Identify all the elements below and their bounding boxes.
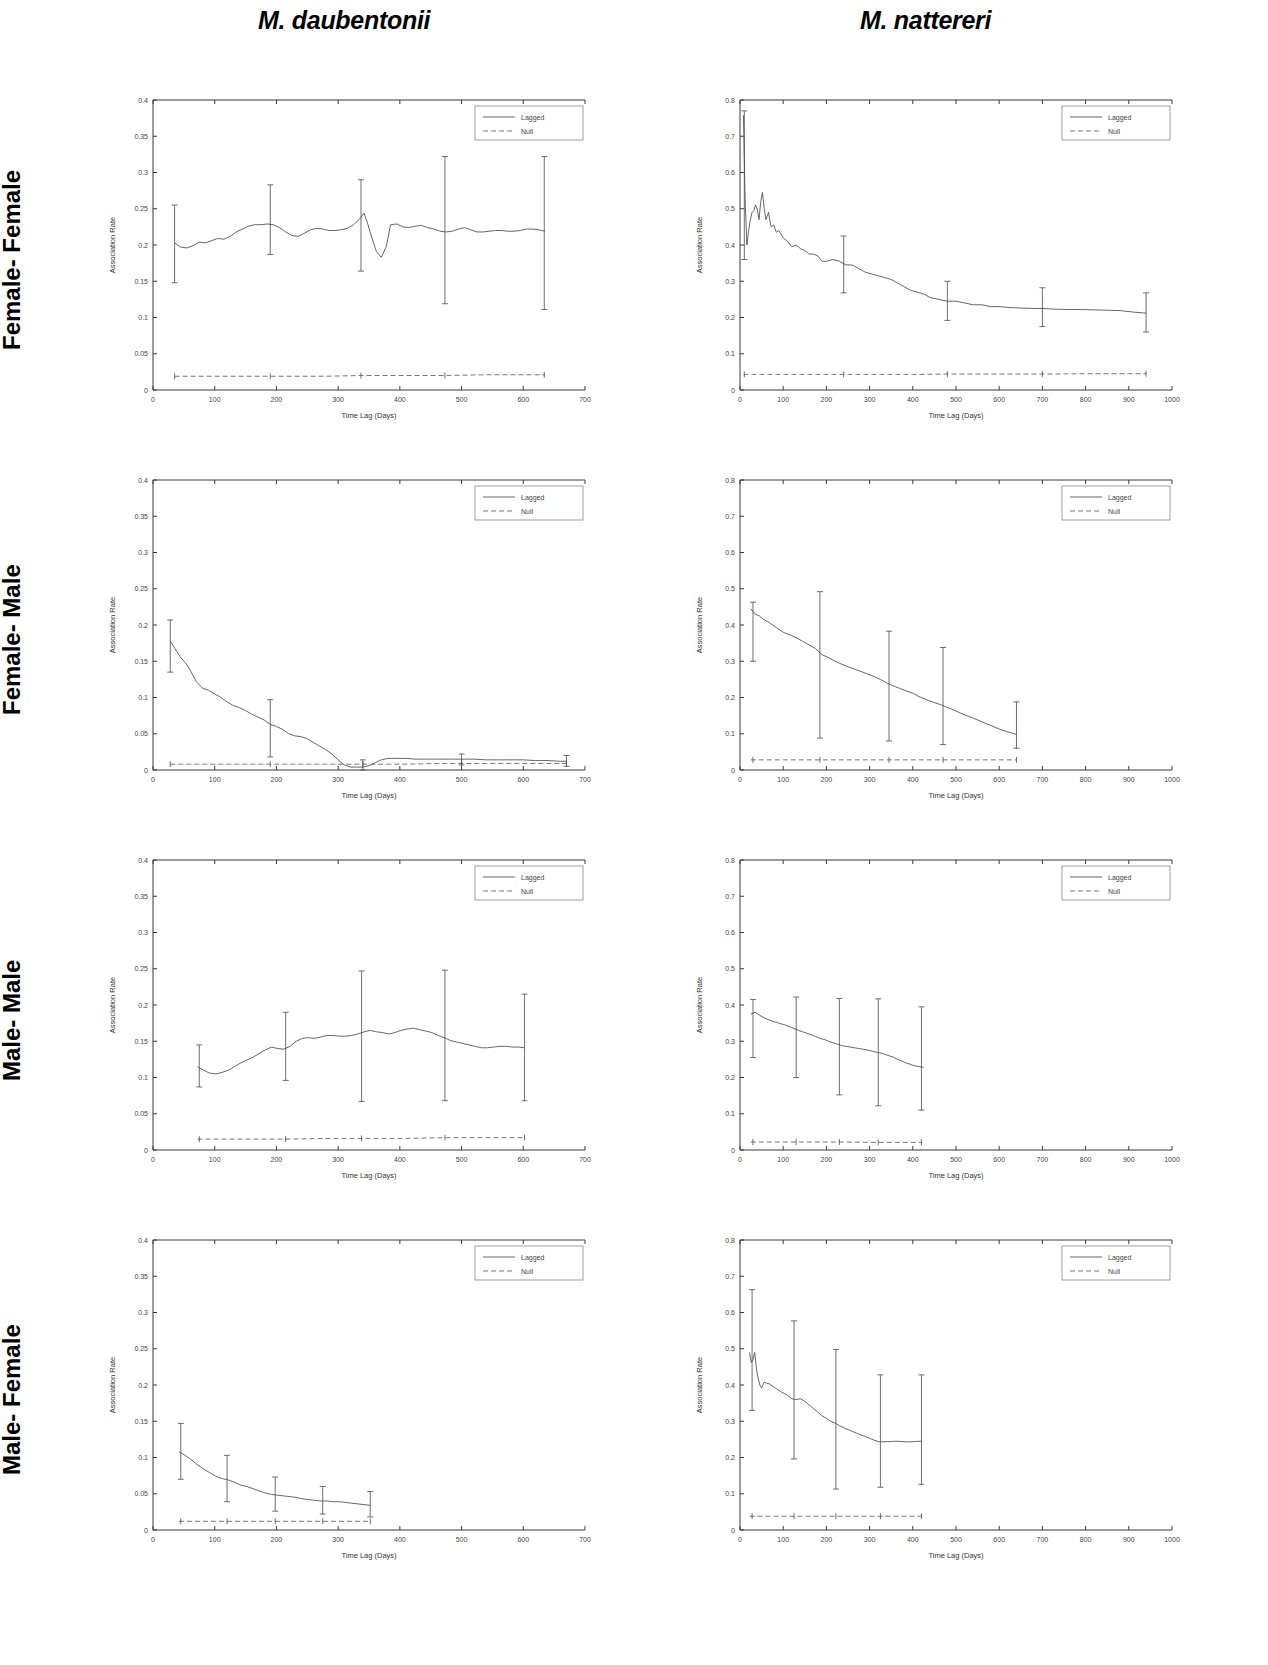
x-tick-label: 0 <box>738 1536 742 1543</box>
y-tick-label: 0.25 <box>134 1345 148 1352</box>
x-tick-label: 0 <box>151 776 155 783</box>
y-tick-label: 0.3 <box>725 658 735 665</box>
x-tick-label: 700 <box>579 1156 591 1163</box>
y-tick-label: 0.3 <box>138 549 148 556</box>
y-tick-label: 0.05 <box>134 730 148 737</box>
y-tick-label: 0.35 <box>134 133 148 140</box>
plot-panel-ff-daubentonii: 010020030040050060070000.050.10.150.20.2… <box>103 86 603 436</box>
x-tick-label: 0 <box>738 776 742 783</box>
plot-panel-mm-daubentonii: 010020030040050060070000.050.10.150.20.2… <box>103 846 603 1196</box>
column-title-nattereri: M. nattereri <box>860 6 1160 35</box>
x-tick-label: 100 <box>777 396 789 403</box>
y-tick-label: 0.2 <box>725 314 735 321</box>
x-tick-label: 400 <box>394 1536 406 1543</box>
x-tick-label: 100 <box>209 1156 221 1163</box>
plot-svg-mm-nattereri: 0100200300400500600700800900100000.10.20… <box>690 846 1190 1196</box>
x-tick-label: 800 <box>1080 776 1092 783</box>
x-tick-label: 1000 <box>1164 396 1180 403</box>
y-tick-label: 0.15 <box>134 658 148 665</box>
y-tick-label: 0.2 <box>138 1002 148 1009</box>
legend-null-label: Null <box>1108 508 1121 515</box>
x-tick-label: 900 <box>1123 1156 1135 1163</box>
x-tick-label: 200 <box>821 1536 833 1543</box>
legend-null-label: Null <box>1108 1268 1121 1275</box>
x-tick-label: 700 <box>1037 1536 1049 1543</box>
x-tick-label: 100 <box>777 1156 789 1163</box>
x-tick-label: 900 <box>1123 776 1135 783</box>
legend-null-label: Null <box>521 508 534 515</box>
y-tick-label: 0.4 <box>138 477 148 484</box>
x-tick-label: 100 <box>209 396 221 403</box>
x-tick-label: 600 <box>517 1156 529 1163</box>
y-tick-label: 0.4 <box>725 242 735 249</box>
y-axis-title: Association Rate <box>108 1357 117 1413</box>
y-tick-label: 0.25 <box>134 205 148 212</box>
legend-lagged-label: Lagged <box>521 494 544 502</box>
series-lagged-line <box>751 609 1017 735</box>
legend-lagged-label: Lagged <box>521 1254 544 1262</box>
series-lagged-line <box>179 1452 370 1506</box>
y-tick-label: 0.4 <box>138 97 148 104</box>
y-axis-title: Association Rate <box>108 597 117 653</box>
legend-null-label: Null <box>521 128 534 135</box>
y-tick-label: 0.7 <box>725 133 735 140</box>
series-lagged-line <box>750 1352 922 1442</box>
plot-panel-fm-nattereri: 0100200300400500600700800900100000.10.20… <box>690 466 1190 816</box>
x-tick-label: 200 <box>821 396 833 403</box>
y-tick-label: 0.5 <box>725 1345 735 1352</box>
y-tick-label: 0.1 <box>138 694 148 701</box>
y-tick-label: 0.2 <box>138 242 148 249</box>
legend-lagged-label: Lagged <box>1108 114 1131 122</box>
x-tick-label: 300 <box>332 1156 344 1163</box>
y-tick-label: 0.7 <box>725 893 735 900</box>
x-tick-label: 300 <box>332 776 344 783</box>
x-tick-label: 500 <box>950 1536 962 1543</box>
plot-svg-fm-nattereri: 0100200300400500600700800900100000.10.20… <box>690 466 1190 816</box>
row-label-male-female: Male- Female <box>0 1250 38 1550</box>
y-tick-label: 0.1 <box>138 314 148 321</box>
y-tick-label: 0.5 <box>725 205 735 212</box>
y-axis-title: Association Rate <box>695 977 704 1033</box>
x-tick-label: 400 <box>907 396 919 403</box>
x-tick-label: 500 <box>456 776 468 783</box>
y-axis-title: Association Rate <box>695 597 704 653</box>
y-tick-label: 0.25 <box>134 585 148 592</box>
y-tick-label: 0.2 <box>725 694 735 701</box>
x-tick-label: 500 <box>456 396 468 403</box>
y-tick-label: 0.3 <box>138 1309 148 1316</box>
x-tick-label: 600 <box>517 1536 529 1543</box>
y-tick-label: 0.1 <box>138 1454 148 1461</box>
y-tick-label: 0.3 <box>725 1038 735 1045</box>
x-tick-label: 200 <box>271 776 283 783</box>
y-tick-label: 0.15 <box>134 1038 148 1045</box>
x-tick-label: 500 <box>950 396 962 403</box>
y-tick-label: 0.2 <box>725 1074 735 1081</box>
x-tick-label: 0 <box>151 396 155 403</box>
y-tick-label: 0.1 <box>725 350 735 357</box>
y-tick-label: 0.4 <box>138 1237 148 1244</box>
plot-svg-mf-nattereri: 0100200300400500600700800900100000.10.20… <box>690 1226 1190 1576</box>
lagged-association-rate-figure: M. daubentonii M. nattereri Female- Fema… <box>0 0 1268 1665</box>
y-tick-label: 0 <box>144 387 148 394</box>
y-tick-label: 0 <box>731 767 735 774</box>
y-tick-label: 0.05 <box>134 1110 148 1117</box>
y-tick-label: 0.2 <box>138 1382 148 1389</box>
y-tick-label: 0 <box>144 1527 148 1534</box>
x-tick-label: 600 <box>993 1156 1005 1163</box>
y-tick-label: 0.8 <box>725 477 735 484</box>
y-tick-label: 0.4 <box>725 622 735 629</box>
y-tick-label: 0.7 <box>725 513 735 520</box>
series-null-line <box>170 763 566 764</box>
x-tick-label: 600 <box>517 776 529 783</box>
x-tick-label: 600 <box>517 396 529 403</box>
y-tick-label: 0.3 <box>725 278 735 285</box>
y-tick-label: 0.4 <box>138 857 148 864</box>
x-tick-label: 600 <box>993 396 1005 403</box>
x-tick-label: 100 <box>777 1536 789 1543</box>
y-tick-label: 0 <box>144 767 148 774</box>
x-axis-title: Time Lag (Days) <box>341 411 397 420</box>
x-tick-label: 400 <box>907 1156 919 1163</box>
x-tick-label: 500 <box>456 1536 468 1543</box>
x-tick-label: 800 <box>1080 1156 1092 1163</box>
y-tick-label: 0.6 <box>725 1309 735 1316</box>
